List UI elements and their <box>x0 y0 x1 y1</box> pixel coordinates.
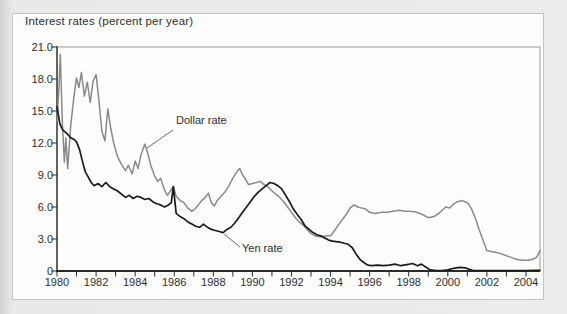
dollar-rate-leader-line <box>147 130 173 148</box>
chart-canvas <box>0 0 567 314</box>
x-tick-label: 1980 <box>35 276 79 289</box>
x-tick-label: 2004 <box>504 276 548 289</box>
y-tick-label: 21.0 <box>0 41 53 54</box>
yen-rate-series-label: Yen rate <box>242 242 283 254</box>
y-tick-label: 6.0 <box>0 201 53 214</box>
x-tick-label: 1992 <box>269 276 313 289</box>
x-tick-label: 2000 <box>426 276 470 289</box>
x-tick-label: 1986 <box>152 276 196 289</box>
x-tick-label: 1982 <box>74 276 118 289</box>
y-tick-label: 3.0 <box>0 233 53 246</box>
page-background: Interest rates (percent per year) 21.018… <box>0 0 567 314</box>
x-tick-label: 1996 <box>348 276 392 289</box>
x-tick-label: 1994 <box>309 276 353 289</box>
chart-title: Interest rates (percent per year) <box>25 15 193 27</box>
y-tick-label: 9.0 <box>0 169 53 182</box>
y-tick-label: 12.0 <box>0 137 53 150</box>
dollar-rate-series-label: Dollar rate <box>176 114 227 126</box>
x-tick-label: 1988 <box>191 276 235 289</box>
y-tick-label: 15.0 <box>0 105 53 118</box>
y-tick-label: 18.0 <box>0 73 53 86</box>
x-tick-label: 2002 <box>465 276 509 289</box>
plot-frame <box>57 47 540 271</box>
x-tick-label: 1984 <box>113 276 157 289</box>
yen-rate-line <box>57 107 540 271</box>
yen-rate-leader-line <box>224 234 240 247</box>
dollar-rate-line <box>57 55 540 261</box>
x-tick-label: 1998 <box>387 276 431 289</box>
x-tick-label: 1990 <box>230 276 274 289</box>
